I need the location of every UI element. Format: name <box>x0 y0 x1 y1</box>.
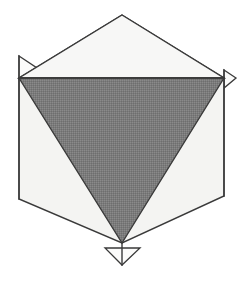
figure-container <box>0 0 247 283</box>
geometric-figure-svg <box>0 0 247 283</box>
